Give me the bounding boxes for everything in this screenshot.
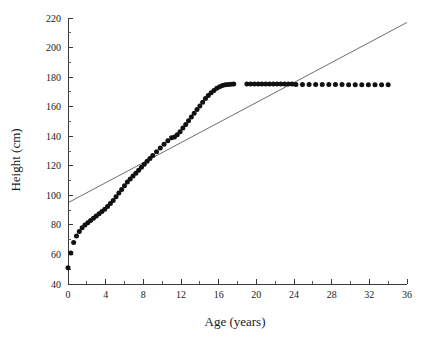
data-point [300, 82, 305, 87]
x-tick-label: 32 [364, 289, 374, 300]
data-point [293, 82, 298, 87]
data-points [66, 82, 391, 271]
scatter-plot: 04812162024283236 4060801001201401601802… [0, 0, 422, 345]
y-tick-label: 100 [46, 190, 61, 201]
x-tick-label: 24 [289, 289, 299, 300]
reference-line [68, 22, 407, 202]
y-tick-labels: 406080100120140160180200220 [46, 13, 61, 290]
x-tick-label: 4 [103, 289, 108, 300]
y-tick-label: 220 [46, 13, 61, 24]
x-tick-label: 20 [251, 289, 261, 300]
y-tick-label: 160 [46, 101, 61, 112]
data-point [333, 82, 338, 87]
x-tick-label: 36 [402, 289, 412, 300]
y-tick-label: 80 [51, 219, 61, 230]
data-point [353, 82, 358, 87]
data-point [372, 82, 377, 87]
axes-group [68, 18, 407, 284]
data-point [74, 233, 79, 238]
data-point [162, 142, 167, 147]
y-tick-label: 60 [51, 249, 61, 260]
data-point [313, 82, 318, 87]
data-point [326, 82, 331, 87]
y-tick-label: 40 [51, 279, 61, 290]
ticks-group [68, 18, 407, 284]
y-tick-label: 120 [46, 160, 61, 171]
x-tick-labels: 04812162024283236 [66, 289, 413, 300]
data-point [158, 146, 163, 151]
data-point [379, 82, 384, 87]
data-point [71, 240, 76, 245]
x-tick-label: 16 [214, 289, 224, 300]
y-tick-label: 140 [46, 131, 61, 142]
y-tick-label: 180 [46, 72, 61, 83]
data-point [366, 82, 371, 87]
x-axis-title: Age (years) [205, 314, 266, 329]
data-point [150, 153, 155, 158]
data-point [307, 82, 312, 87]
chart-figure: 04812162024283236 4060801001201401601802… [0, 0, 422, 345]
data-point [154, 149, 159, 154]
x-tick-label: 0 [66, 289, 71, 300]
data-point [346, 82, 351, 87]
data-point [386, 82, 391, 87]
data-point [231, 82, 236, 87]
trend-line [68, 22, 407, 202]
data-point [320, 82, 325, 87]
x-tick-label: 8 [141, 289, 146, 300]
data-point [66, 265, 71, 270]
data-point [359, 82, 364, 87]
x-tick-label: 12 [176, 289, 186, 300]
x-tick-label: 28 [327, 289, 337, 300]
y-tick-label: 200 [46, 42, 61, 53]
data-point [340, 82, 345, 87]
data-point [68, 250, 73, 255]
y-axis-title: Height (cm) [8, 128, 23, 191]
